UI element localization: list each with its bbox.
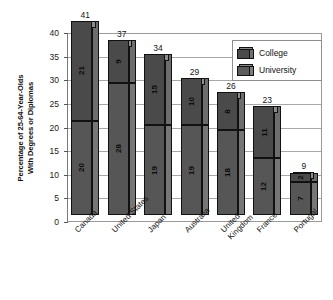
bar-australia: 1910: [181, 78, 209, 222]
bar-side-college: [274, 106, 281, 158]
college-swatch-icon: [237, 47, 254, 59]
legend-label-college: College: [259, 48, 288, 58]
y-axis-label-line-1: Percentage of 25-64-Year-Olds: [16, 74, 26, 181]
y-axis-tick-label: 40: [41, 28, 59, 38]
y-axis-tick-label: 5: [41, 193, 59, 203]
bar-side-university: [238, 130, 245, 215]
legend: College University: [232, 40, 322, 81]
bar-segment-college: 21: [71, 21, 92, 120]
y-axis-tick-label: 15: [41, 146, 59, 156]
bar-segment-university: 7: [290, 182, 311, 215]
bar-total-label: 26: [211, 81, 251, 91]
bar-canada: 2021: [71, 21, 99, 222]
legend-label-university: University: [259, 65, 296, 75]
y-axis-tick-label: 20: [41, 123, 59, 133]
bar-united-states: 289: [108, 40, 136, 222]
bar-chart: Percentage of 25-64-Year-Olds With Degre…: [0, 0, 333, 300]
bar-segment-value-college: 2: [296, 175, 305, 179]
bar-side-college: [92, 21, 99, 120]
y-axis-tick-label: 10: [41, 170, 59, 180]
y-axis-tick-label: 25: [41, 99, 59, 109]
bar-total-label: 23: [247, 95, 287, 105]
legend-item-university: University: [237, 61, 317, 78]
y-axis-tick: [64, 222, 68, 223]
bar-segment-value-university: 19: [150, 166, 159, 175]
bar-united-kingdom: 188: [217, 92, 245, 222]
bar-segment-value-university: 20: [77, 163, 86, 172]
bar-segment-value-college: 9: [114, 59, 123, 63]
bar-segment-value-college: 10: [187, 97, 196, 106]
bar-segment-value-college: 15: [150, 85, 159, 94]
bar-segment-college: 11: [253, 106, 274, 158]
bar-segment-college: 10: [181, 78, 202, 125]
bar-segment-value-university: 12: [259, 182, 268, 191]
bar-total-label: 34: [138, 43, 178, 53]
bar-segment-university: 28: [108, 83, 129, 215]
bar-segment-college: 15: [144, 54, 165, 125]
bar-total-label: 9: [284, 161, 324, 171]
y-axis-label-line-2: With Degrees or Diplomas: [26, 74, 36, 181]
bar-segment-university: 19: [181, 125, 202, 215]
bar-side-university: [165, 125, 172, 215]
y-axis-tick-label: 30: [41, 75, 59, 85]
bar-segment-value-university: 18: [223, 168, 232, 177]
bar-segment-university: 18: [217, 130, 238, 215]
bar-france: 1211: [253, 106, 281, 222]
bar-segment-value-college: 11: [259, 128, 268, 136]
bar-segment-value-university: 19: [187, 166, 196, 175]
bar-total-label: 37: [102, 29, 142, 39]
bar-side-university: [274, 158, 281, 215]
legend-item-college: College: [237, 44, 317, 61]
bar-side-university: [202, 125, 209, 215]
bar-side-college: [202, 78, 209, 125]
bar-segment-college: 8: [217, 92, 238, 130]
bar-segment-value-university: 28: [114, 144, 123, 153]
bar-segment-value-college: 21: [77, 66, 86, 75]
bar-segment-university: 20: [71, 121, 92, 216]
bar-side-university: [129, 83, 136, 215]
bar-side-university: [92, 121, 99, 216]
bar-segment-college: 2: [290, 173, 311, 182]
university-swatch-icon: [237, 64, 254, 76]
bar-segment-university: 12: [253, 158, 274, 215]
bar-side-college: [165, 54, 172, 125]
bar-total-label: 41: [65, 10, 105, 20]
bar-segment-value-college: 8: [223, 109, 232, 113]
bar-segment-value-university: 7: [296, 196, 305, 200]
bar-japan: 1915: [144, 54, 172, 222]
bar-segment-college: 9: [108, 40, 129, 83]
y-axis-label: Percentage of 25-64-Year-Olds With Degre…: [6, 30, 46, 225]
y-axis-tick-label: 35: [41, 52, 59, 62]
bar-total-label: 29: [175, 67, 215, 77]
y-axis-tick-label: 0: [41, 217, 59, 227]
